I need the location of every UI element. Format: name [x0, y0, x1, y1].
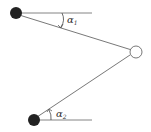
alpha1-label: α1 [67, 14, 78, 26]
top-filled-node [10, 7, 22, 19]
alpha2-arc [49, 110, 51, 120]
right-hollow-node [130, 46, 142, 58]
bottom-filled-node [28, 114, 40, 126]
alpha2-label: α2 [56, 108, 67, 120]
two-link-diagram: α1 α2 [0, 0, 151, 132]
